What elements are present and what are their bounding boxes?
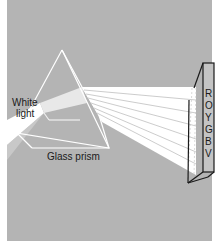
spectrum-letter-r: R: [205, 88, 212, 99]
label-glass-prism: Glass prism: [47, 151, 100, 162]
spectrum-letter-b: B: [205, 136, 212, 147]
label-white-light-line1: White: [12, 97, 38, 108]
spectrum-letter-g: G: [205, 124, 213, 135]
spectrum-letter-o: O: [205, 100, 213, 111]
spectrum-letter-y: Y: [205, 112, 212, 123]
label-white-light-line2: light: [16, 108, 35, 119]
spectrum-letter-v: V: [205, 148, 212, 159]
prism-dispersion-diagram: White light Glass prism R O Y G B V: [0, 0, 220, 249]
